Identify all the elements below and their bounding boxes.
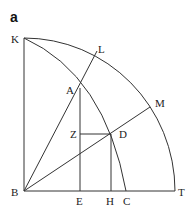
point-label-C: C xyxy=(123,195,130,207)
panel-label: a xyxy=(10,9,18,25)
point-label-B: B xyxy=(11,186,18,198)
point-label-H: H xyxy=(106,195,114,207)
geometry-diagram: a K L A M Z D B E H C T xyxy=(0,0,195,214)
line-BM xyxy=(24,107,150,191)
point-label-D: D xyxy=(119,128,127,140)
line-BL xyxy=(24,51,97,191)
point-label-L: L xyxy=(98,43,105,55)
point-label-E: E xyxy=(76,195,83,207)
point-label-K: K xyxy=(11,33,19,45)
point-label-T: T xyxy=(178,186,185,198)
outer-arc-KT xyxy=(24,38,175,191)
point-label-Z: Z xyxy=(70,128,77,140)
point-label-M: M xyxy=(155,97,165,109)
point-label-A: A xyxy=(66,84,74,96)
